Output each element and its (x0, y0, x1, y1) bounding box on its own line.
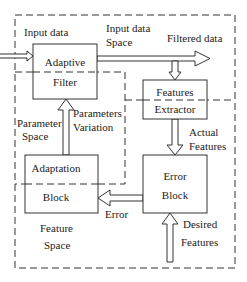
actual-features-label-2: Features (189, 140, 226, 152)
parameters-variation-label-2: Variation (73, 121, 114, 133)
error-block-label-2: Block (162, 189, 189, 201)
parameter-space-label-1: Parameter (17, 117, 62, 129)
filtered-data-arrow (97, 51, 210, 66)
error-block-label-1: Error (163, 170, 187, 182)
adaptive-filter-label-2: Filter (53, 76, 77, 88)
parameters-variation-label-1: Parameters (73, 107, 122, 119)
actual-features-label-1: Actual (189, 126, 218, 138)
actual-features-arrow (167, 119, 183, 155)
error-label: Error (105, 208, 129, 220)
input-data-space-label-1: Input data (106, 22, 150, 34)
input-data-arrow (0, 51, 33, 61)
parameter-space-label-2: Space (22, 130, 48, 142)
features-extractor-label-2: Extractor (155, 103, 196, 115)
adaptation-label-1: Adaptation (32, 162, 81, 174)
adaptive-filter-block (33, 44, 97, 99)
adaptive-filter-label-1: Adaptive (45, 56, 85, 68)
input-data-space-label-2: Space (106, 36, 132, 48)
to-extractor-arrow (169, 61, 181, 80)
error-block (143, 155, 207, 213)
feature-space-label-1: Feature (40, 222, 73, 234)
input-data-label: Input data (24, 26, 68, 38)
feature-space-label-2: Space (44, 239, 70, 251)
desired-features-arrow (162, 213, 178, 262)
filtered-data-label: Filtered data (167, 32, 222, 44)
features-extractor-label-1: Features (156, 86, 193, 98)
adaptation-label-2: Block (43, 191, 70, 203)
error-arrow (98, 190, 143, 206)
adaptive-system-diagram: Adaptive Filter Features Extractor Adapt… (0, 0, 247, 282)
desired-features-label-1: Desired (183, 218, 218, 230)
desired-features-label-2: Features (181, 236, 218, 248)
